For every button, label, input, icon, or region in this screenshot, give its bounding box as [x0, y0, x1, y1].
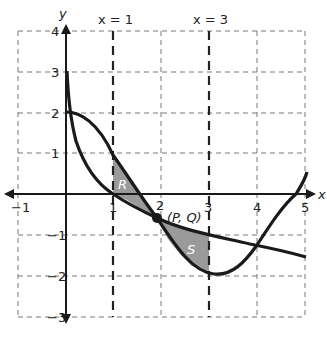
y-tick-4: 4	[51, 24, 59, 39]
x-tick-3: 3	[204, 200, 212, 215]
chart: y x x = 1 x = 3 −1 1 2 3 4 5 4 3 2 1 −1 …	[0, 0, 327, 338]
vline-x1-label: x = 1	[98, 12, 133, 27]
point-pq-label: (P, Q)	[167, 210, 202, 225]
x-tick--1: −1	[11, 200, 30, 215]
y-axis-label: y	[58, 6, 67, 21]
x-axis-label: x	[317, 187, 326, 202]
y-tick-2: 2	[51, 106, 59, 121]
y-tick--2: −2	[47, 269, 66, 284]
x-axis-arrow-right	[306, 189, 316, 199]
x-tick-1: 1	[109, 200, 117, 215]
y-tick--1: −1	[47, 228, 66, 243]
y-tick-3: 3	[51, 65, 59, 80]
y-tick--3: −3	[47, 310, 66, 325]
x-tick-2: 2	[156, 198, 164, 213]
vline-x3-label: x = 3	[193, 12, 228, 27]
point-pq	[152, 213, 162, 223]
x-tick-5: 5	[301, 200, 309, 215]
y-axis-arrow-top	[61, 24, 71, 34]
x-tick-4: 4	[253, 200, 261, 215]
region-r-label: R	[118, 177, 127, 192]
region-s-label: S	[187, 242, 195, 257]
x-axis-arrow-left	[4, 189, 14, 199]
y-tick-1: 1	[51, 146, 59, 161]
region-s-shade	[157, 218, 209, 272]
curve-decreasing	[67, 71, 306, 257]
